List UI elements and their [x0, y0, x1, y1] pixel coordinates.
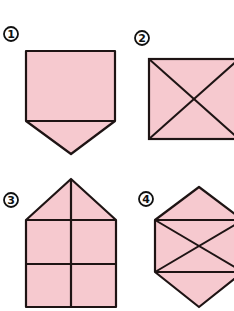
diagram: 1 2 3 4 [0, 0, 234, 311]
figure-1: 1 [4, 27, 115, 154]
figure-4-outline [155, 187, 234, 307]
badge-2-label: 2 [138, 32, 146, 45]
badge-3-label: 3 [7, 194, 15, 207]
figure-4: 4 [139, 187, 234, 307]
figure-3: 3 [4, 179, 116, 307]
badge-1-label: 1 [7, 28, 15, 41]
figure-1-outline [26, 51, 115, 154]
badge-4-label: 4 [142, 193, 150, 206]
figure-2: 2 [135, 31, 234, 139]
